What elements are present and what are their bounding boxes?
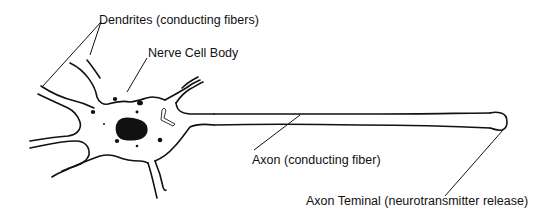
cell-body-leader-line: [127, 58, 147, 92]
neuron-diagram: Dendrites (conducting fibers) Nerve Cell…: [0, 0, 535, 222]
cell-outline: [30, 60, 507, 198]
cell-body-label: Nerve Cell Body: [148, 47, 238, 60]
axon-terminal-label: Axon Teminal (neurotransmitter release): [306, 195, 528, 208]
nucleus: [116, 117, 148, 140]
axon-leader-line: [254, 115, 300, 150]
dendrites-label: Dendrites (conducting fibers): [99, 14, 259, 27]
neuron-illustration: [0, 0, 535, 222]
axon-terminal-leader-line: [445, 130, 503, 196]
dendrite-leader-line-1: [43, 22, 101, 86]
axon-label: Axon (conducting fiber): [252, 154, 381, 167]
leader-lines: [43, 22, 503, 196]
